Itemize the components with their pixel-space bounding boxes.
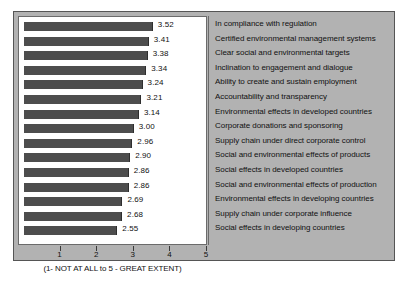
bar	[24, 124, 134, 133]
bar	[24, 22, 153, 31]
bar-value-label: 3.38	[153, 49, 169, 58]
x-axis-caption: (1- NOT AT ALL to 5 - GREAT EXTENT)	[18, 264, 207, 273]
bar-value-label: 2.69	[127, 195, 143, 204]
bar-value-label: 2.68	[127, 210, 143, 219]
bar-value-label: 3.41	[154, 35, 170, 44]
bar	[24, 110, 139, 119]
bar	[24, 183, 129, 192]
category-label: Supply chain under corporate influence	[215, 209, 352, 218]
category-label: Social effects in developed countries	[215, 165, 343, 174]
x-axis-tick-label: 2	[94, 250, 98, 259]
bar-value-label: 2.90	[135, 151, 151, 160]
plot-area: 3.523.413.383.343.243.213.143.002.962.90…	[18, 16, 207, 245]
x-axis-tick-label: 4	[167, 250, 171, 259]
x-axis-tick-label: 3	[131, 250, 135, 259]
category-label: In compliance with regulation	[215, 19, 317, 28]
category-label: Inclination to engagement and dialogue	[215, 63, 353, 72]
bar	[24, 66, 146, 75]
bar-value-label: 2.86	[134, 181, 150, 190]
bar	[24, 212, 122, 221]
category-label: Supply chain under direct corporate cont…	[215, 136, 365, 145]
chart-frame: 3.523.413.383.343.243.213.143.002.962.90…	[13, 11, 395, 261]
category-label: Environmental effects in developing coun…	[215, 194, 374, 203]
category-label: Ability to create and sustain employment	[215, 77, 357, 86]
category-label: Social and environmental effects of prod…	[215, 150, 370, 159]
bar-value-label: 3.52	[158, 20, 174, 29]
bar	[24, 197, 122, 206]
bar	[24, 226, 117, 235]
category-label: Clear social and environmental targets	[215, 48, 350, 57]
bar	[24, 139, 132, 148]
category-label: Certified environmental management syste…	[215, 34, 376, 43]
category-label-panel: In compliance with regulationCertified e…	[208, 16, 392, 245]
bar-value-label: 2.86	[134, 166, 150, 175]
category-label: Environmental effects in developed count…	[215, 107, 372, 116]
bar-value-label: 3.24	[148, 78, 164, 87]
bar-value-label: 2.55	[122, 224, 138, 233]
bar-value-label: 2.96	[137, 137, 153, 146]
chart-figure: 3.523.413.383.343.243.213.143.002.962.90…	[0, 0, 409, 298]
bar-value-label: 3.34	[151, 64, 167, 73]
bar	[24, 95, 141, 104]
x-axis: 12345	[18, 246, 392, 258]
bar-value-label: 3.14	[144, 108, 160, 117]
bar	[24, 153, 130, 162]
bar	[24, 37, 149, 46]
x-axis-tick-label: 5	[204, 250, 208, 259]
bar	[24, 80, 143, 89]
bar	[24, 51, 148, 60]
x-axis-tick-label: 1	[57, 250, 61, 259]
category-label: Corporate donations and sponsoring	[215, 121, 343, 130]
category-label: Social effects in developing countries	[215, 223, 345, 232]
category-label: Social and environmental effects of prod…	[215, 180, 377, 189]
category-label: Accountability and transparency	[215, 92, 327, 101]
bar-value-label: 3.21	[146, 93, 162, 102]
bar	[24, 168, 129, 177]
bar-value-label: 3.00	[139, 122, 155, 131]
